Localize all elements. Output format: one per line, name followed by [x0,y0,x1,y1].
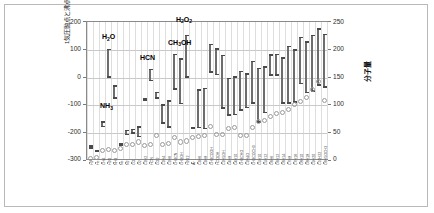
x-axis-label: C6H14 [282,154,286,165]
vertical-gridline [159,22,160,159]
range-bar [221,55,223,108]
range-bar [305,42,307,92]
range-bar-cap [101,126,105,128]
vertical-gridline [237,22,238,159]
range-bar-cap [173,88,177,90]
range-bar-cap [311,35,315,37]
range-bar-cap [209,44,213,46]
x-axis-label: C2H5OH [222,150,226,165]
range-bar [203,88,205,128]
annotation-HCN: HCN [140,54,155,61]
y-tick-left-4: -200 [57,128,81,135]
vertical-gridline [147,22,148,159]
tick-left [83,160,86,161]
vertical-gridline [291,22,292,159]
range-bar-cap [179,58,183,60]
vertical-gridline [261,22,262,159]
x-axis-label: C2H2 [144,156,148,165]
vertical-gridline [249,22,250,159]
range-bar [317,29,319,85]
x-axis-label: C9H20 [312,154,316,165]
x-axis-label: C6H6 [270,156,274,165]
range-bar-cap [233,114,237,116]
range-bar-cap [269,74,273,76]
y-tick-left-1: 100 [57,45,81,52]
range-bar-cap [125,134,129,136]
range-bar [179,59,181,104]
range-bar [197,90,199,128]
range-bar-cap [215,74,219,76]
x-axis-label: C4H10 [234,154,238,165]
range-bar [311,35,313,90]
range-bar-cap [173,54,177,56]
range-bar [257,69,259,122]
molecular-weight-marker [262,118,267,123]
vertical-gridline [117,22,118,159]
vertical-gridline [207,22,208,159]
x-axis-label: N2 [126,160,130,165]
range-bar-cap [125,130,129,132]
range-bar-cap [323,86,327,88]
y-tick-left-0: 200 [57,18,81,25]
range-bar-cap [269,54,273,56]
vertical-gridline [267,22,268,159]
range-bar-cap [143,99,147,101]
tick-right [328,104,331,105]
range-bar-cap [233,76,237,78]
x-axis-label: C2H4O [246,153,250,165]
vertical-gridline [87,22,88,159]
x-axis-label: CH3COCH3 [252,145,256,165]
molecular-weight-marker [94,155,99,160]
vertical-gridline [213,22,214,159]
range-bar-cap [179,103,183,105]
y-tick-right-4: 50 [333,128,357,135]
range-bar-cap [197,127,201,129]
vertical-gridline [315,22,316,159]
vertical-gridline [105,22,106,159]
vertical-gridline [141,22,142,159]
range-bar-cap [317,28,321,30]
range-bar-cap [221,55,225,57]
tick-right [328,160,331,161]
range-bar [293,50,295,102]
range-bar-cap [137,126,141,128]
range-bar [263,67,265,112]
x-axis-label: NH3 [114,158,118,165]
range-bar-cap [155,97,159,99]
range-bar-cap [137,136,141,138]
vertical-gridline [111,22,112,159]
range-bar-cap [215,48,219,50]
vertical-gridline [273,22,274,159]
x-axis-label: C3H8 [204,156,208,165]
tick-right [328,49,331,50]
range-bar-cap [263,112,267,114]
vertical-gridline [279,22,280,159]
range-bar-cap [239,71,243,73]
range-bar [113,86,115,98]
range-bar [323,35,325,87]
range-bar-cap [287,102,291,104]
range-bar-cap [203,128,207,130]
x-axis-label: O2 [138,160,142,165]
annotation-H₂O: H2O [102,33,115,40]
range-bar-cap [251,61,255,63]
range-bar-cap [287,46,291,48]
vertical-gridline [93,22,94,159]
molecular-weight-marker [286,107,291,112]
molecular-weight-marker [304,95,309,100]
x-axis-label: H2 [90,160,94,165]
range-bar-cap [191,128,195,130]
tick-right [328,77,331,78]
range-bar-cap [281,57,285,59]
range-bar [287,46,289,102]
range-bar-cap [113,85,117,87]
x-axis-label: C6H5OCH3 [324,146,328,165]
range-bar-cap [227,114,231,116]
range-bar [167,101,169,127]
tick-right [328,132,331,133]
range-bar-cap [155,92,159,94]
range-bar-cap [161,104,165,106]
y-axis-right-title: 分子量 [362,42,372,82]
range-bar [173,54,175,89]
range-bar [227,78,229,115]
